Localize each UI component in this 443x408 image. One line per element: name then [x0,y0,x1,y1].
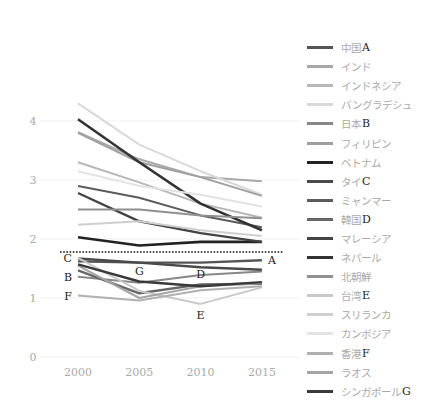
legend-item: 北朝鮮 [305,267,443,286]
legend-item: タイC [305,172,443,191]
legend-item: インド [305,57,443,76]
legend-label: マレーシア [341,231,391,246]
legend-label: ミャンマー [341,193,391,208]
legend-swatch [307,371,333,374]
legend-item: 日本B [305,114,443,133]
series-line [78,119,262,230]
x-axis-ticks: 2000200520102015 [64,366,276,379]
legend-label: 日本 [341,116,361,131]
legend-label: インドネシア [341,78,401,93]
annotation-label: E [197,309,205,322]
legend-swatch [307,275,333,278]
x-tick-label: 2015 [248,366,276,379]
series-line [78,221,262,236]
legend-swatch [307,332,333,335]
legend-swatch [307,256,333,259]
legend-item: マレーシア [305,229,443,248]
annotation-label: D [196,268,205,281]
legend-swatch [307,46,333,49]
legend-label: 香港 [341,346,361,361]
y-tick-label: 1 [30,292,37,305]
legend-label: カンボジア [341,326,391,341]
legend-swatch [307,294,333,297]
legend-swatch [307,237,333,240]
legend-label: ネパール [341,250,381,265]
legend-item: バングラデシュ [305,95,443,114]
legend-item: 香港F [305,344,443,363]
legend-swatch [307,65,333,68]
legend-swatch [307,352,333,355]
y-tick-label: 2 [30,233,37,246]
legend-swatch [307,142,333,145]
legend-label: 台湾 [341,288,361,303]
y-axis-ticks: 01234 [30,115,37,364]
series-line [78,171,262,206]
legend-letter: C [362,175,370,188]
legend-swatch [307,180,333,183]
annotation-label: C [64,252,72,265]
legend-label: タイ [341,174,361,189]
legend-swatch [307,122,333,125]
annotation-label: F [64,290,72,303]
x-tick-label: 2000 [64,366,92,379]
x-tick-label: 2005 [125,366,153,379]
legend-label: インド [341,59,371,74]
legend-item: ベトナム [305,153,443,172]
legend-letter: G [402,385,411,398]
series-line [78,103,262,195]
legend-label: ベトナム [341,155,381,170]
legend-label: ラオス [341,365,371,380]
legend-label: シンガポール [341,384,401,399]
legend-label: スリランカ [341,307,391,322]
legend-label: フィリピン [341,136,391,151]
annotation-label: G [135,265,144,278]
y-tick-label: 4 [30,115,37,128]
legend-item: 中国A [305,38,443,57]
legend-item: ネパール [305,248,443,267]
legend-swatch [307,390,333,393]
legend-swatch [307,103,333,106]
legend-item: 台湾E [305,286,443,305]
series-lines [78,103,262,304]
legend-letter: E [362,289,370,302]
legend: 中国Aインドインドネシアバングラデシュ日本BフィリピンベトナムタイCミャンマー韓… [305,38,443,401]
series-line [78,133,262,196]
legend-swatch [307,161,333,164]
legend-item: ミャンマー [305,191,443,210]
x-tick-label: 2010 [187,366,215,379]
legend-item: シンガポールG [305,382,443,401]
legend-label: バングラデシュ [341,97,412,112]
legend-swatch [307,218,333,221]
legend-letter: A [362,41,370,54]
gridlines [40,121,300,357]
legend-item: カンボジア [305,324,443,343]
legend-letter: D [362,213,371,226]
legend-item: インドネシア [305,76,443,95]
legend-item: ラオス [305,363,443,382]
legend-label: 北朝鮮 [341,269,371,284]
legend-swatch [307,84,333,87]
legend-label: 韓国 [341,212,361,227]
y-tick-label: 3 [30,174,37,187]
legend-letter: B [362,117,370,130]
annotation-label: A [267,254,277,267]
legend-letter: F [362,347,370,360]
legend-swatch [307,199,333,202]
legend-item: スリランカ [305,305,443,324]
legend-item: フィリピン [305,133,443,152]
legend-item: 韓国D [305,210,443,229]
annotation-label: B [64,271,72,284]
legend-swatch [307,313,333,316]
legend-label: 中国 [341,40,361,55]
y-tick-label: 0 [30,351,37,364]
